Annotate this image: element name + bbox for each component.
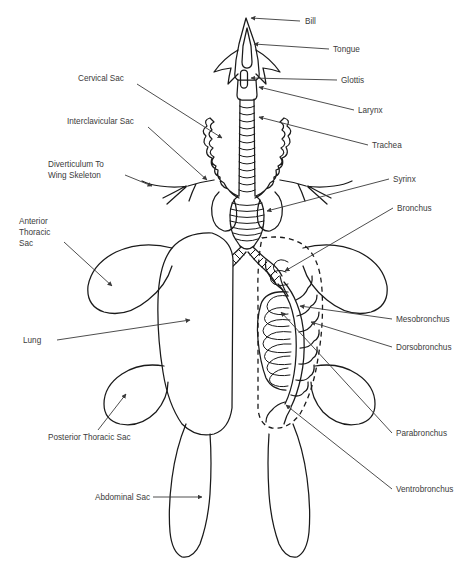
label-syrinx: Syrinx (393, 175, 416, 184)
leader-dorsobronchus (311, 322, 392, 347)
syrinx-rings (230, 203, 264, 241)
trachea-group (239, 99, 255, 196)
label-dorsobronchus: Dorsobronchus (396, 343, 452, 352)
posterior-thoracic-sac-left (104, 365, 168, 425)
label-glottis: Glottis (341, 76, 364, 85)
posterior-thoracic-sac-group (104, 365, 375, 425)
head-group (214, 18, 280, 100)
dorsobronchus-shape (291, 276, 319, 396)
label-trachea: Trachea (372, 141, 402, 150)
label-posterior-thoracic-sac: Posterior Thoracic Sac (48, 433, 131, 442)
syrinx-group (230, 196, 264, 249)
leader-trachea (259, 117, 368, 145)
cervical-sac-group (203, 118, 291, 198)
leader-anterior-thoracic (64, 242, 112, 286)
leader-interclavicular (148, 127, 207, 180)
left-lung-outline (158, 233, 233, 435)
label-bill: Bill (305, 17, 316, 26)
anterior-thoracic-sac-group (88, 245, 387, 314)
avian-respiratory-diagram: Bill Tongue Glottis Larynx Trachea Syrin… (0, 0, 473, 575)
leader-tongue (254, 44, 329, 49)
label-larynx: Larynx (358, 106, 383, 115)
label-anterior-thoracic-line3: Sac (19, 239, 33, 248)
label-bronchus: Bronchus (397, 204, 432, 213)
leader-bronchus (285, 208, 393, 271)
leader-syrinx (267, 179, 389, 211)
diverticulum-left (142, 180, 214, 204)
label-ventrobronchus: Ventrobronchus (396, 485, 453, 494)
jaw-left (214, 50, 238, 84)
anterior-thoracic-sac-right (303, 245, 387, 314)
right-lung-group (257, 237, 322, 428)
leader-glottis (251, 78, 337, 80)
abdominal-sac-group (169, 424, 309, 557)
trachea-rings (239, 106, 255, 192)
leader-cervical-sac (137, 84, 222, 138)
syrinx-bifurcation (240, 246, 254, 249)
label-interclavicular-sac: Interclavicular Sac (67, 117, 134, 126)
posterior-thoracic-sac-right (311, 365, 375, 425)
leader-bill (251, 18, 300, 21)
label-abdominal-sac: Abdominal Sac (95, 493, 150, 502)
figure-canvas: Bill Tongue Glottis Larynx Trachea Syrin… (0, 0, 473, 575)
leader-larynx (259, 87, 354, 110)
right-lung-dashed-outline (258, 237, 323, 428)
abdominal-sac-right (268, 424, 310, 557)
label-anterior-thoracic-line2: Thoracic (19, 228, 50, 237)
label-cervical-sac: Cervical Sac (78, 74, 124, 83)
label-diverticulum-line2: Wing Skeleton (48, 171, 101, 180)
interclavicular-lobe-right (257, 192, 282, 231)
label-mesobronchus: Mesobronchus (396, 315, 450, 324)
label-tongue: Tongue (333, 45, 360, 54)
label-parabronchus: Parabronchus (396, 429, 447, 438)
leader-ventrobronchus (286, 405, 392, 489)
cervical-sac-right (255, 118, 291, 198)
leader-diverticulum (125, 175, 152, 186)
interclavicular-lobe-left (212, 192, 237, 231)
label-anterior-thoracic-line1: Anterior (19, 217, 48, 226)
parabronchus-coils (263, 260, 291, 387)
mesobronchus-shape-b (284, 282, 304, 407)
left-lung-group (158, 233, 233, 435)
abdominal-sac-left (169, 424, 211, 557)
label-lung: Lung (23, 336, 42, 345)
label-diverticulum-line1: Diverticulum To (48, 160, 104, 169)
